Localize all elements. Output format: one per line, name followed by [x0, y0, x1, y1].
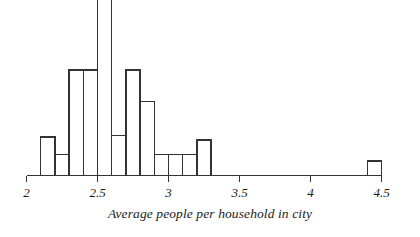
histogram-bar — [112, 135, 126, 175]
histogram-bar — [55, 154, 69, 175]
x-axis-tick-label: 2 — [23, 185, 30, 201]
histogram-figure: 22.533.544.5 Average people per househol… — [0, 0, 420, 237]
histogram-bar — [69, 70, 83, 175]
histogram-bar — [41, 137, 55, 175]
x-axis-tick-label: 4 — [307, 185, 314, 201]
x-axis-title: Average people per household in city — [0, 206, 420, 222]
x-axis-tick-label: 3 — [165, 185, 172, 201]
x-axis-tick-label: 4.5 — [373, 185, 389, 201]
histogram-bar — [140, 102, 154, 176]
histogram-bar — [126, 70, 140, 175]
histogram-bar — [98, 0, 112, 175]
histogram-bar — [197, 140, 211, 175]
histogram-bar — [154, 154, 168, 175]
x-axis-group — [27, 176, 382, 182]
x-axis-tick-label: 3.5 — [231, 185, 247, 201]
x-axis-tick-label: 2.5 — [89, 185, 105, 201]
histogram-bar — [183, 154, 197, 175]
histogram-bar — [169, 154, 183, 175]
histogram-bar — [367, 161, 381, 175]
histogram-bars-group — [41, 0, 382, 175]
histogram-bar — [83, 70, 97, 175]
histogram-plot-svg — [0, 0, 420, 237]
